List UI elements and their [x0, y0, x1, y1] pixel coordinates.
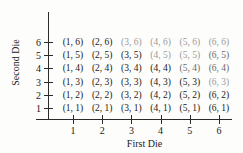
outcome-pair-4-6: (4, 6)	[146, 37, 176, 47]
y-axis-tick-label-4: 4	[29, 64, 41, 74]
y-axis-tick-label-5: 5	[29, 51, 41, 61]
y-axis-tick-1	[44, 108, 53, 109]
x-axis-tick-1	[73, 115, 74, 124]
outcome-pair-1-4: (1, 4)	[58, 63, 88, 73]
outcome-pair-4-4: (4, 4)	[146, 63, 176, 73]
outcome-pair-5-2: (5, 2)	[175, 90, 205, 100]
outcome-pair-1-1: (1, 1)	[58, 103, 88, 113]
x-axis-tick-5	[190, 115, 191, 124]
outcome-pair-2-1: (2, 1)	[87, 103, 117, 113]
outcome-pair-6-4: (6, 4)	[204, 63, 234, 73]
outcome-pair-5-5: (5, 5)	[175, 50, 205, 60]
outcome-pair-6-5: (6, 5)	[204, 50, 234, 60]
y-axis-tick-2	[44, 95, 53, 96]
outcome-pair-5-1: (5, 1)	[175, 103, 205, 113]
y-axis-tick-6	[44, 42, 53, 43]
x-axis-title: First Die	[0, 138, 243, 149]
outcome-pair-1-3: (1, 3)	[58, 77, 88, 87]
outcome-pair-6-3: (6, 3)	[204, 77, 234, 87]
outcome-pair-2-2: (2, 2)	[87, 90, 117, 100]
x-axis-tick-6	[219, 115, 220, 124]
outcome-pair-3-4: (3, 4)	[116, 63, 146, 73]
x-axis-line	[36, 119, 232, 120]
y-axis-tick-label-2: 2	[29, 91, 41, 101]
x-axis-tick-label-5: 5	[183, 126, 197, 136]
y-axis-tick-3	[44, 82, 53, 83]
x-axis-tick-2	[102, 115, 103, 124]
outcome-pair-5-6: (5, 6)	[175, 37, 205, 47]
x-axis-tick-3	[131, 115, 132, 124]
outcome-pair-3-6: (3, 6)	[116, 37, 146, 47]
x-axis-tick-label-4: 4	[154, 126, 168, 136]
outcome-pair-2-6: (2, 6)	[87, 37, 117, 47]
x-axis-tick-label-2: 2	[95, 126, 109, 136]
outcome-pair-1-2: (1, 2)	[58, 90, 88, 100]
outcome-pair-5-3: (5, 3)	[175, 77, 205, 87]
outcome-pair-1-5: (1, 5)	[58, 50, 88, 60]
y-axis-tick-label-1: 1	[29, 104, 41, 114]
outcome-pair-4-2: (4, 2)	[146, 90, 176, 100]
y-axis-line	[48, 12, 49, 120]
outcome-pair-6-2: (6, 2)	[204, 90, 234, 100]
x-axis-tick-4	[161, 115, 162, 124]
outcome-pair-6-6: (6, 6)	[204, 37, 234, 47]
y-axis-tick-label-3: 3	[29, 78, 41, 88]
outcome-pair-1-6: (1, 6)	[58, 37, 88, 47]
outcome-pair-3-5: (3, 5)	[116, 50, 146, 60]
y-axis-tick-5	[44, 55, 53, 56]
y-axis-tick-4	[44, 68, 53, 69]
outcome-pair-4-3: (4, 3)	[146, 77, 176, 87]
x-axis-tick-label-3: 3	[124, 126, 138, 136]
outcome-pair-2-5: (2, 5)	[87, 50, 117, 60]
dice-sample-space-figure: 123456 123456 (1, 6)(2, 6)(3, 6)(4, 6)(5…	[0, 0, 243, 153]
outcome-pair-4-5: (4, 5)	[146, 50, 176, 60]
outcome-pair-4-1: (4, 1)	[146, 103, 176, 113]
outcome-pair-6-1: (6, 1)	[204, 103, 234, 113]
outcome-pair-2-3: (2, 3)	[87, 77, 117, 87]
outcome-pair-3-1: (3, 1)	[116, 103, 146, 113]
y-axis-title: Second Die	[10, 18, 21, 108]
x-axis-tick-label-6: 6	[212, 126, 226, 136]
outcome-pair-3-2: (3, 2)	[116, 90, 146, 100]
outcome-pair-2-4: (2, 4)	[87, 63, 117, 73]
outcome-pair-5-4: (5, 4)	[175, 63, 205, 73]
y-axis-tick-label-6: 6	[29, 38, 41, 48]
x-axis-tick-label-1: 1	[66, 126, 80, 136]
outcome-pair-3-3: (3, 3)	[116, 77, 146, 87]
